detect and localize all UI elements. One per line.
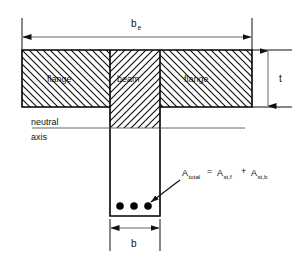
label-b-symbol: b <box>131 238 137 249</box>
beam-cross-section-diagram: b e t neutral axis flange beam flange <box>0 0 303 257</box>
rebar-dot <box>144 202 151 209</box>
label-t-symbol: t <box>279 73 282 84</box>
reinforcement-bars <box>116 202 151 209</box>
annotation-astf-symbol: A <box>217 168 223 178</box>
annotation-astf-subscript: st,f <box>224 173 233 180</box>
neutral-axis-label-line1: neutral <box>31 117 59 127</box>
label-flange-right: flange <box>184 74 209 84</box>
label-beam: beam <box>117 74 140 84</box>
annotation-atotal-symbol: A <box>182 168 188 178</box>
label-be-subscript: e <box>138 24 142 31</box>
neutral-axis-label-line2: axis <box>31 132 48 142</box>
diagram-canvas: b e t neutral axis flange beam flange <box>0 0 303 257</box>
label-flange-left: flange <box>47 74 72 84</box>
dimension-web-width: b <box>110 219 160 251</box>
beam-web-hatch <box>110 50 160 128</box>
label-be-symbol: b <box>131 18 137 29</box>
annotation-leader-line <box>151 180 180 202</box>
annotation-equals: = <box>207 166 212 176</box>
annotation-plus: + <box>241 166 246 176</box>
steel-area-annotation: A total = A st,f + A st,b <box>151 166 268 202</box>
region-labels: flange beam flange <box>47 74 209 84</box>
annotation-astb-subscript: st,b <box>258 173 269 180</box>
rebar-dot <box>130 202 137 209</box>
rebar-dot <box>116 202 123 209</box>
annotation-atotal-subscript: total <box>189 173 201 180</box>
annotation-astb-symbol: A <box>251 168 257 178</box>
dimension-flange-thickness: t <box>252 50 292 107</box>
dimension-effective-width: b e <box>22 18 252 50</box>
